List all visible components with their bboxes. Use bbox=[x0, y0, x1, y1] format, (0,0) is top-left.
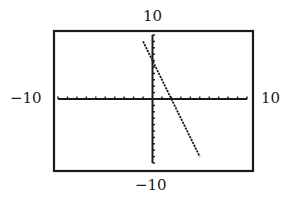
graph-window bbox=[0, 0, 282, 199]
axes bbox=[58, 35, 247, 163]
